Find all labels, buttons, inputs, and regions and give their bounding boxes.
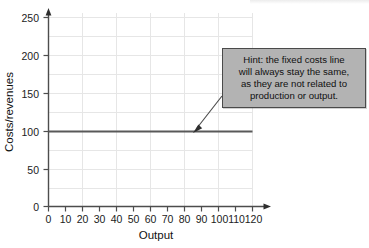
- x-tick-label: 120: [245, 213, 263, 225]
- x-tick-label: 40: [111, 213, 123, 225]
- y-axis-tick-labels: 0 50 100 150 200 250: [21, 12, 39, 213]
- y-axis: [46, 8, 52, 207]
- hint-callout-box: Hint: the fixed costs line will always s…: [222, 48, 366, 108]
- x-tick-label: 10: [60, 213, 72, 225]
- x-tick-label: 100: [211, 213, 229, 225]
- y-axis-ticks: [44, 18, 49, 207]
- hint-leader-arrow: [193, 96, 222, 133]
- x-axis-title: Output: [139, 229, 174, 241]
- fixed-costs-chart: 0 50 100 150 200 250 0 10 20 30 40 50 60…: [0, 0, 369, 248]
- y-tick-label: 150: [21, 88, 39, 100]
- vertical-gridlines: [49, 13, 253, 206]
- x-tick-label: 30: [94, 213, 106, 225]
- x-tick-label: 50: [128, 213, 140, 225]
- x-tick-label: 80: [179, 213, 191, 225]
- hint-callout-text: Hint: the fixed costs line will always s…: [239, 54, 349, 103]
- x-tick-label: 110: [228, 213, 245, 225]
- x-tick-label: 90: [196, 213, 208, 225]
- x-axis-ticks: [49, 207, 253, 212]
- y-tick-label: 100: [21, 126, 39, 138]
- x-tick-label: 60: [145, 213, 157, 225]
- x-tick-label: 20: [77, 213, 89, 225]
- chart-plot-area: 0 50 100 150 200 250 0 10 20 30 40 50 60…: [0, 0, 369, 248]
- x-axis: [49, 204, 272, 210]
- x-axis-tick-labels: 0 10 20 30 40 50 60 70 80 90 100 110 120: [46, 213, 263, 225]
- y-tick-label: 250: [21, 12, 39, 24]
- y-tick-label: 50: [27, 164, 39, 176]
- x-tick-label: 70: [162, 213, 174, 225]
- y-tick-label: 0: [33, 201, 39, 213]
- y-axis-title: Costs/revenues: [3, 72, 15, 152]
- x-tick-label: 0: [46, 213, 52, 225]
- y-tick-label: 200: [21, 50, 39, 62]
